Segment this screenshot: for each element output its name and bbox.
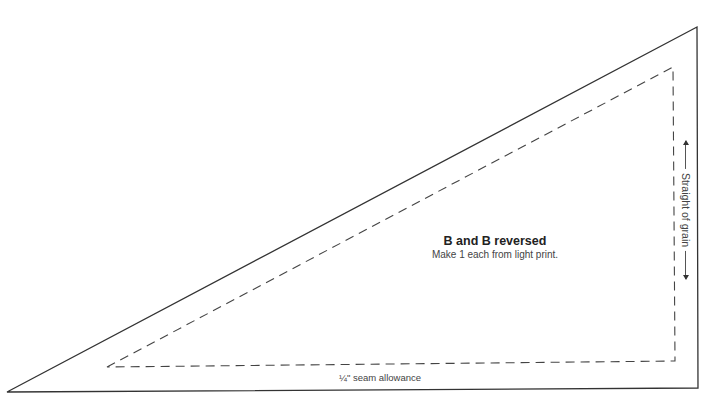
arrow-right-icon — [686, 251, 687, 279]
arrow-left-icon — [686, 141, 687, 169]
pattern-piece-diagram — [0, 0, 713, 410]
cutting-instruction: Make 1 each from light print. — [400, 249, 590, 261]
seam-line — [107, 67, 675, 367]
seam-allowance-label: ¼" seam allowance — [300, 372, 460, 383]
cutting-line — [7, 27, 698, 392]
piece-name: B and B reversed — [400, 234, 590, 249]
grain-line-indicator: Straight of grain — [680, 141, 692, 279]
piece-label: B and B reversed Make 1 each from light … — [400, 234, 590, 261]
grain-label: Straight of grain — [680, 173, 692, 247]
